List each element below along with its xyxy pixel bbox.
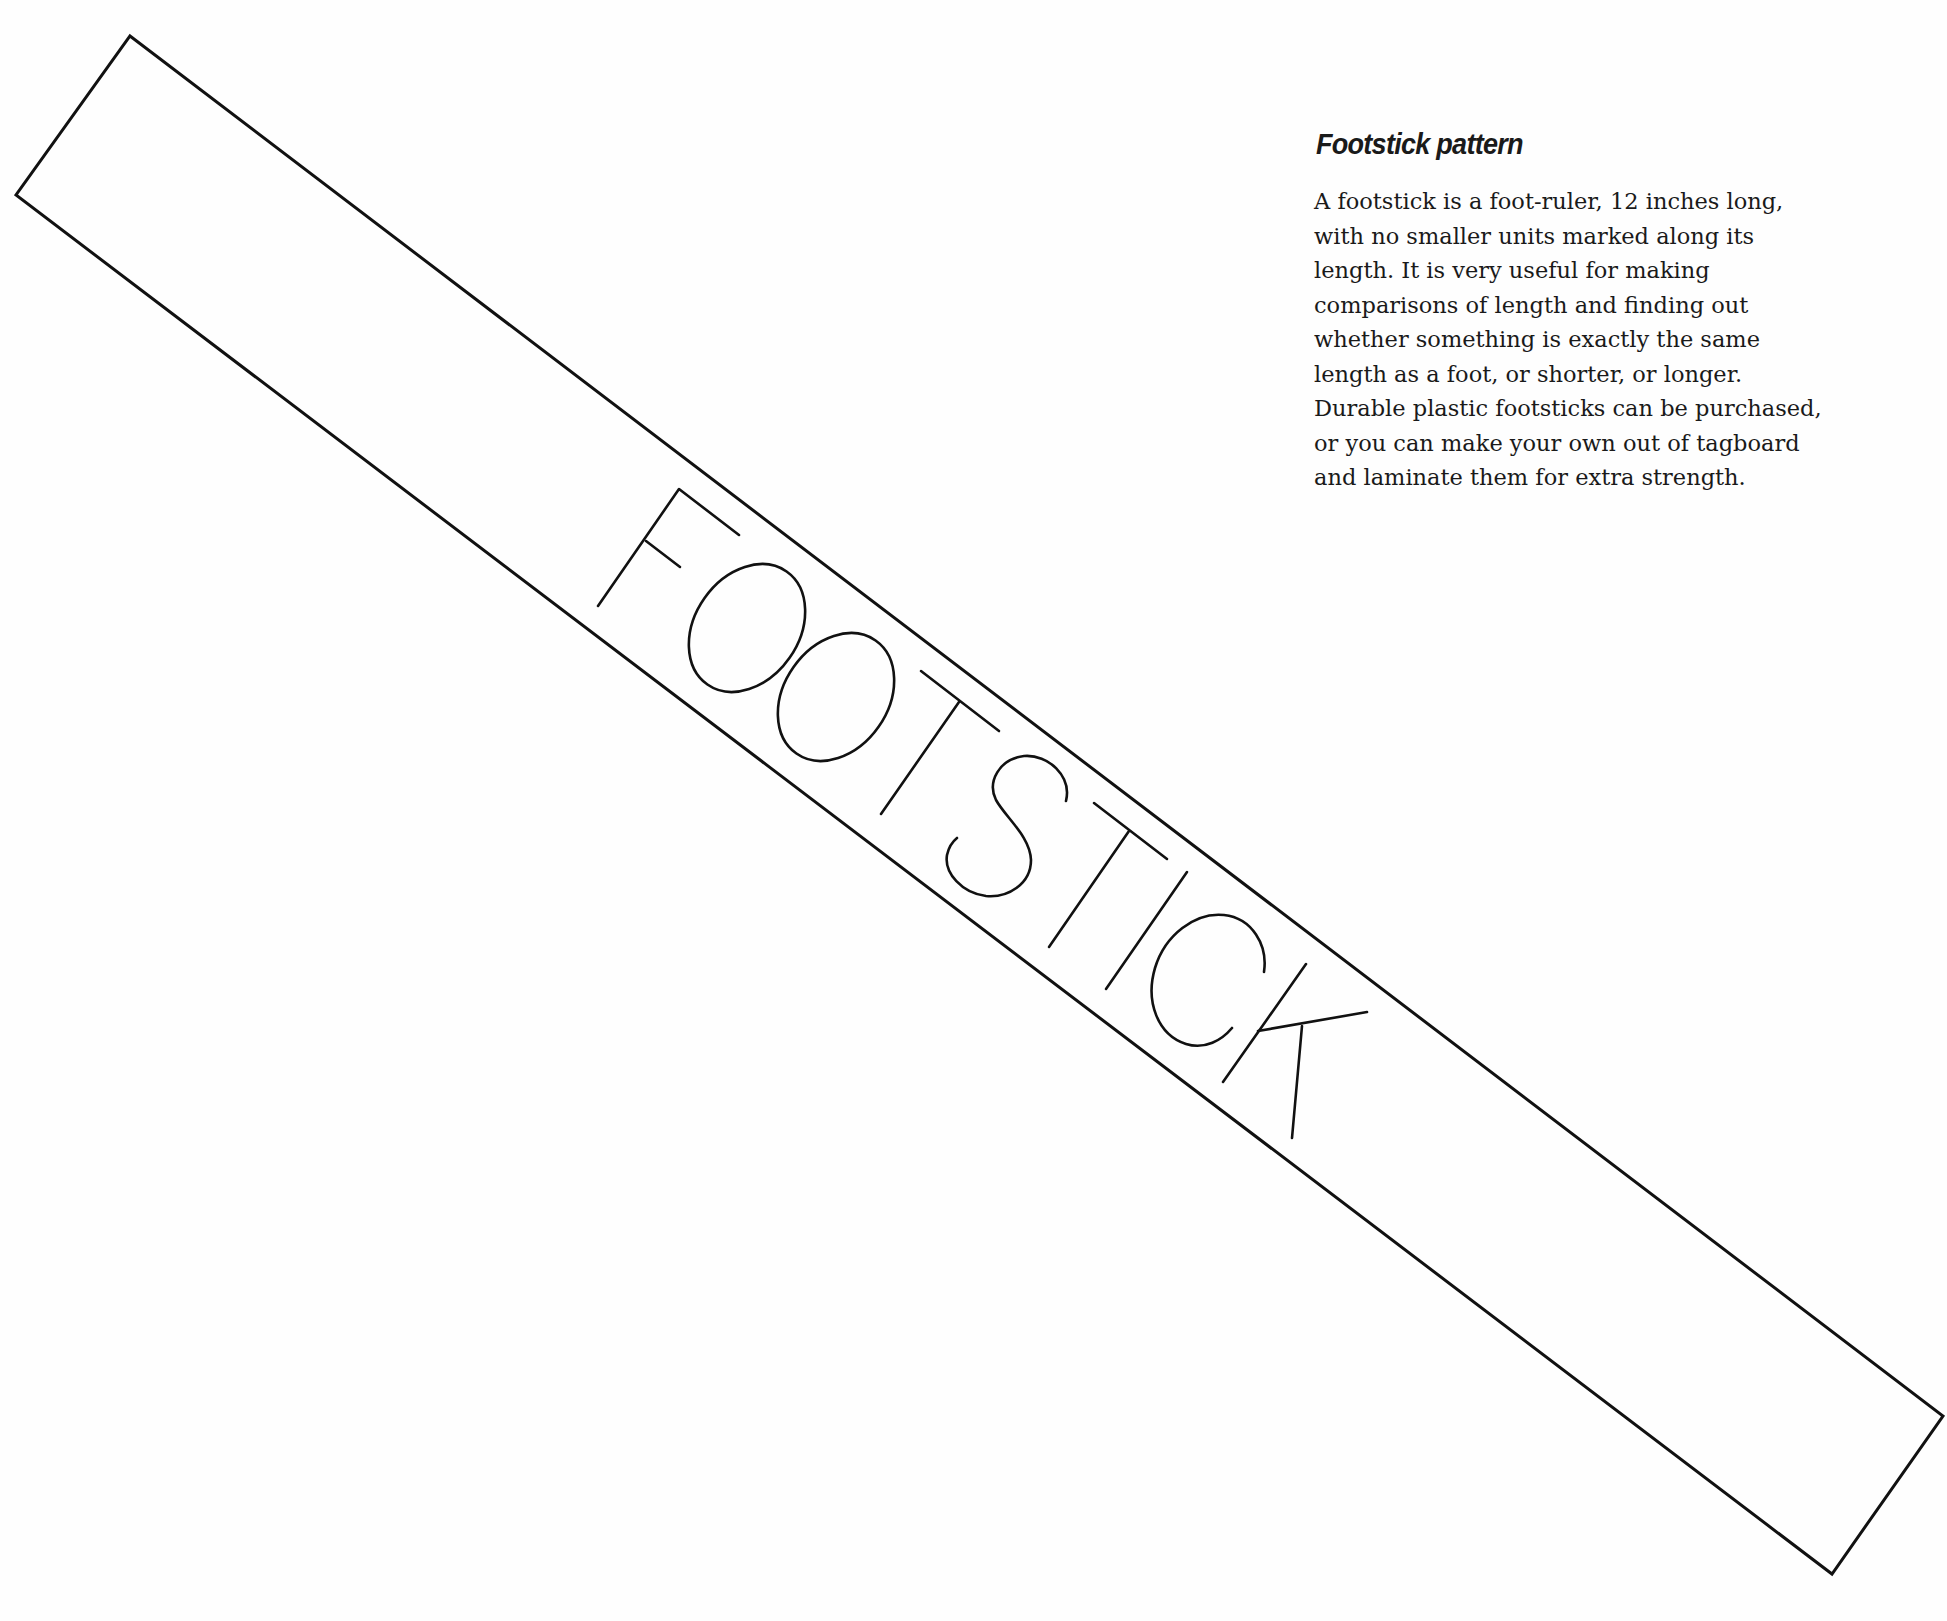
letter-c bbox=[1152, 915, 1265, 1046]
description-line: or you can make your own out of tagboard bbox=[1314, 426, 1914, 461]
description-line: length as a foot, or shorter, or longer. bbox=[1314, 357, 1914, 392]
letter-t-1 bbox=[881, 671, 999, 814]
letter-i bbox=[1106, 872, 1187, 989]
letter-o-1 bbox=[665, 542, 829, 715]
letter-s bbox=[947, 756, 1067, 896]
description-line: and laminate them for extra strength. bbox=[1314, 460, 1914, 495]
letter-o-2 bbox=[754, 611, 918, 784]
page-title: Footstick pattern bbox=[1316, 126, 1854, 162]
description-line: Durable plastic footsticks can be purcha… bbox=[1314, 391, 1914, 426]
pattern-description-block: Footstick pattern A footstick is a foot-… bbox=[1314, 126, 1914, 495]
footstick-lettering bbox=[598, 489, 1367, 1138]
description-line: length. It is very useful for making bbox=[1314, 253, 1914, 288]
letter-k bbox=[1223, 964, 1367, 1138]
description-line: A footstick is a foot-ruler, 12 inches l… bbox=[1314, 184, 1914, 219]
description-line: whether something is exactly the same bbox=[1314, 322, 1914, 357]
description-line: with no smaller units marked along its bbox=[1314, 219, 1914, 254]
description-line: comparisons of length and finding out bbox=[1314, 288, 1914, 323]
description-text: A footstick is a foot-ruler, 12 inches l… bbox=[1314, 184, 1914, 495]
letter-f bbox=[598, 489, 739, 606]
